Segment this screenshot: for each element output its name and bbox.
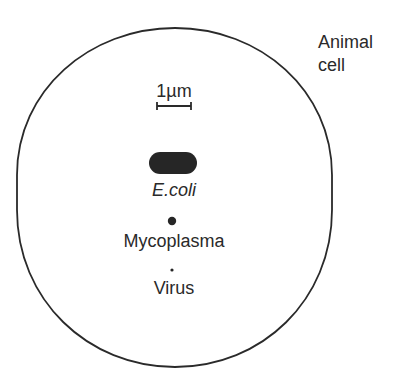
virus-dot [170,268,173,271]
ecoli-shape [149,152,197,174]
animal-label-line1: Animal [318,33,373,51]
mycoplasma-dot [168,217,176,225]
mycoplasma-label: Mycoplasma [123,232,224,250]
animal-cell-label: Animal cell [318,33,373,74]
scale-bar [157,102,191,110]
scale-label: 1µm [156,82,191,100]
cell-label-line2: cell [318,56,373,74]
virus-label: Virus [154,279,195,297]
ecoli-label: E.coli [152,181,196,199]
